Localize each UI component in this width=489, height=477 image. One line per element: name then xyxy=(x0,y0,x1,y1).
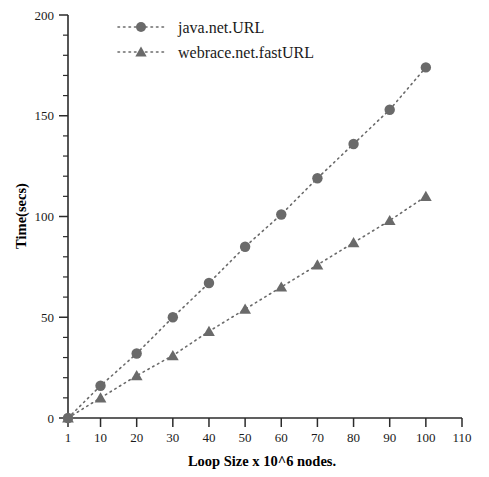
y-tick-label: 0 xyxy=(48,411,55,426)
triangle-marker-icon xyxy=(239,304,251,314)
x-tick-label: 100 xyxy=(416,430,436,445)
triangle-marker-icon xyxy=(420,191,432,201)
circle-marker-icon xyxy=(240,242,250,252)
triangle-marker-icon xyxy=(203,326,215,336)
series-2 xyxy=(62,191,432,423)
y-tick-label: 200 xyxy=(35,8,55,23)
triangle-marker-icon xyxy=(95,392,107,402)
x-axis: 1102030405060708090100110 xyxy=(65,418,472,445)
circle-marker-icon xyxy=(348,139,358,149)
triangle-marker-icon xyxy=(167,350,179,360)
data-series-group xyxy=(62,62,432,423)
legend-label: java.net.URL xyxy=(177,19,264,37)
x-axis-title: Loop Size x 10^6 nodes. xyxy=(188,453,336,469)
triangle-marker-icon xyxy=(348,237,360,247)
x-tick-label: 20 xyxy=(130,430,143,445)
x-tick-label: 30 xyxy=(166,430,179,445)
x-tick-label: 70 xyxy=(311,430,324,445)
circle-marker-icon xyxy=(204,278,214,288)
x-tick-label: 50 xyxy=(239,430,252,445)
circle-marker-icon xyxy=(168,312,178,322)
legend-item: java.net.URL xyxy=(118,19,264,37)
x-tick-label: 60 xyxy=(275,430,288,445)
legend-item: webrace.net.fastURL xyxy=(118,44,314,61)
x-tick-label: 110 xyxy=(452,430,471,445)
circle-marker-icon xyxy=(95,381,105,391)
x-tick-label: 10 xyxy=(94,430,107,445)
y-axis: 050100150200 xyxy=(35,8,69,426)
legend-label: webrace.net.fastURL xyxy=(178,44,314,61)
y-tick-label: 150 xyxy=(35,108,55,123)
circle-marker-icon xyxy=(136,22,146,32)
x-tick-label: 90 xyxy=(383,430,396,445)
y-axis-title: Time(secs) xyxy=(13,183,30,249)
x-tick-label: 1 xyxy=(65,430,72,445)
circle-marker-icon xyxy=(421,62,431,72)
y-tick-label: 50 xyxy=(41,310,54,325)
circle-marker-icon xyxy=(312,173,322,183)
triangle-marker-icon xyxy=(312,259,324,269)
chart-legend: java.net.URLwebrace.net.fastURL xyxy=(118,19,314,61)
circle-marker-icon xyxy=(131,348,141,358)
circle-marker-icon xyxy=(385,105,395,115)
x-tick-label: 40 xyxy=(202,430,215,445)
triangle-marker-icon xyxy=(275,281,287,291)
triangle-marker-icon xyxy=(131,370,143,380)
circle-marker-icon xyxy=(276,209,286,219)
x-tick-label: 80 xyxy=(347,430,360,445)
scatter-plot: 050100150200 1102030405060708090100110 j… xyxy=(0,0,489,477)
series-1 xyxy=(63,62,431,423)
y-tick-label: 100 xyxy=(35,209,55,224)
triangle-marker-icon xyxy=(384,215,396,225)
chart-container: 050100150200 1102030405060708090100110 j… xyxy=(0,0,489,477)
